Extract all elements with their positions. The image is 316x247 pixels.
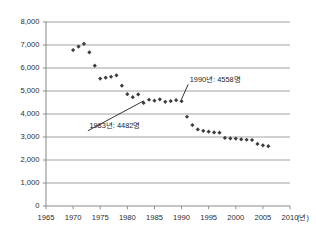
y-tick-label: 3,000 [20, 132, 39, 141]
y-tick-label: 8,000 [20, 17, 39, 26]
chart-canvas: 01,0002,0003,0004,0005,0006,0007,0008,00… [0, 0, 316, 247]
y-axis-labels-group: 01,0002,0003,0004,0005,0006,0007,0008,00… [20, 17, 39, 210]
x-tick-label: 1980 [119, 213, 136, 222]
y-tick-label: 5,000 [20, 86, 39, 95]
x-tick-label: 2005 [254, 213, 271, 222]
x-tick-label: 1985 [146, 213, 163, 222]
chart-background [0, 0, 316, 247]
x-tick-label: 1990 [173, 213, 190, 222]
x-axis-unit-label: (년) [297, 213, 309, 222]
annotation-label: 1990년: 4558명 [190, 75, 241, 84]
x-tick-label: 1965 [38, 213, 55, 222]
x-tick-label: 1975 [92, 213, 109, 222]
y-tick-label: 7,000 [20, 40, 39, 49]
scatter-chart: 01,0002,0003,0004,0005,0006,0007,0008,00… [0, 0, 316, 247]
annotation-label: 1983년: 4482명 [89, 121, 140, 130]
x-tick-label: 2000 [227, 213, 244, 222]
x-tick-label: 1970 [65, 213, 82, 222]
y-tick-label: 1,000 [20, 178, 39, 187]
x-tick-label: 1995 [200, 213, 217, 222]
y-tick-label: 0 [35, 201, 39, 210]
y-tick-label: 4,000 [20, 109, 39, 118]
x-tick-label: 2010 [282, 213, 299, 222]
y-tick-label: 2,000 [20, 155, 39, 164]
y-tick-label: 6,000 [20, 63, 39, 72]
